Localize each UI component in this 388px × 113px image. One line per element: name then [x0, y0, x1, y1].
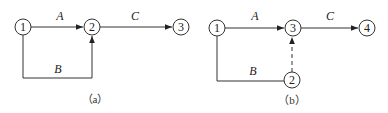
- node-a-1: 1: [15, 19, 31, 35]
- edge-label-a-A: A: [55, 9, 64, 23]
- edge-label-b-C: C: [326, 9, 335, 23]
- diagram-a: A B C 1 2 3 （a）: [15, 9, 189, 105]
- svg-text:3: 3: [290, 21, 296, 35]
- svg-text:1: 1: [20, 20, 26, 34]
- svg-text:4: 4: [364, 21, 370, 35]
- svg-text:2: 2: [89, 20, 95, 34]
- svg-text:2: 2: [289, 73, 295, 87]
- caption-b: （b）: [278, 94, 306, 106]
- node-a-3: 3: [173, 19, 189, 35]
- diagram-b: A B C 1 3 4 2 （b）: [209, 9, 375, 106]
- edge-label-b-A: A: [250, 9, 259, 23]
- edge-label-a-C: C: [131, 9, 140, 23]
- node-a-2: 2: [84, 19, 100, 35]
- node-b-4: 4: [359, 20, 375, 36]
- svg-text:3: 3: [178, 20, 184, 34]
- caption-a: （a）: [82, 93, 109, 105]
- network-diagrams: A B C 1 2 3 （a） A B C 1: [0, 0, 388, 113]
- node-b-2: 2: [284, 72, 300, 88]
- node-b-3: 3: [285, 20, 301, 36]
- node-b-1: 1: [209, 20, 225, 36]
- svg-text:1: 1: [214, 21, 220, 35]
- edge-label-b-B: B: [249, 64, 257, 78]
- edge-label-a-B: B: [54, 62, 62, 76]
